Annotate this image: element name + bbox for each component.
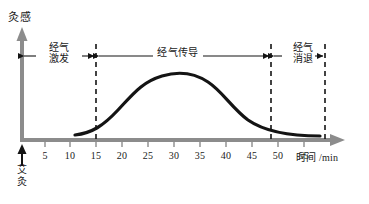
y-axis-title: 灸感 <box>8 11 31 24</box>
x-tick-label: 50 <box>267 150 289 162</box>
x-tick-label: 40 <box>215 150 237 162</box>
moxibustion-origin-label-line2: 灸 <box>12 176 32 188</box>
moxibustion-start-arrow <box>18 144 27 166</box>
sensation-curve <box>75 73 320 136</box>
x-tick-label: 25 <box>137 150 159 162</box>
phase-label-subsidence-line1: 经气 <box>283 42 323 53</box>
x-tick-label: 15 <box>85 150 107 162</box>
y-axis <box>17 27 28 140</box>
phase-label-subsidence-line2: 消退 <box>283 53 323 64</box>
moxibustion-sensation-chart <box>0 0 369 204</box>
x-tick-label: 45 <box>241 150 263 162</box>
phase-label-excitation: 经气 激发 <box>38 42 80 64</box>
x-tick-label: 20 <box>111 150 133 162</box>
x-tick-label: 30 <box>163 150 185 162</box>
phase-label-conduction: 经气传导 <box>155 47 201 58</box>
phase-label-conduction-line1: 经气传导 <box>155 47 201 58</box>
moxibustion-origin-label: 艾 灸 <box>12 164 32 187</box>
x-tick-label: 10 <box>59 150 81 162</box>
phase-label-excitation-line2: 激发 <box>38 53 80 64</box>
x-tick-label: 35 <box>189 150 211 162</box>
x-axis-title: 时间 /min <box>296 152 338 164</box>
phase-label-subsidence: 经气 消退 <box>283 42 323 64</box>
moxibustion-origin-label-line1: 艾 <box>12 164 32 176</box>
phase-label-excitation-line1: 经气 <box>38 42 80 53</box>
x-tick-label: 5 <box>34 150 56 162</box>
